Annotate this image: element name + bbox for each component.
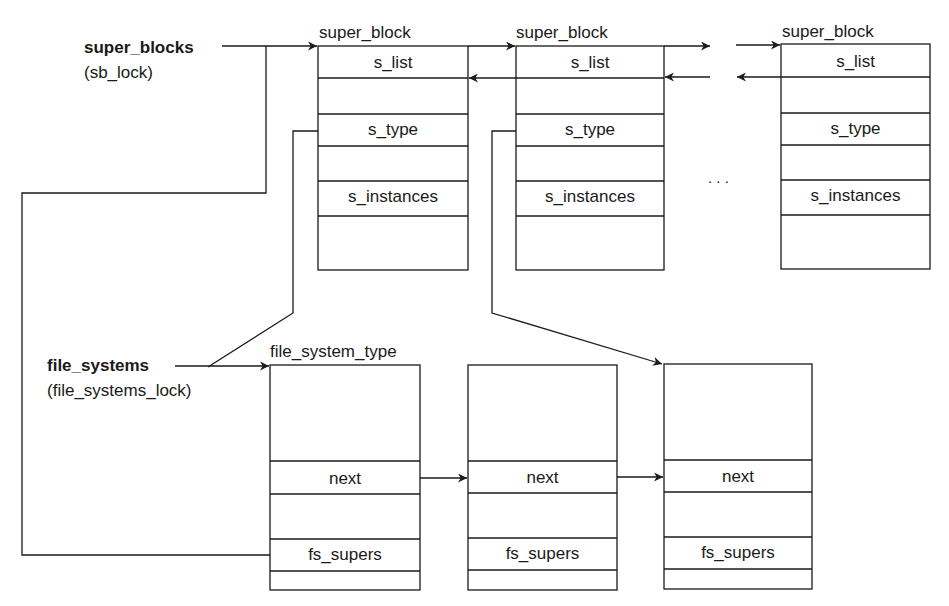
- fst1-field-fs-supers: fs_supers: [270, 546, 420, 563]
- super-blocks-to-fs-supers-line: [22, 46, 270, 555]
- super-block-1: [318, 46, 468, 270]
- file-systems-lock-label: (file_systems_lock): [47, 382, 192, 399]
- sb2-field-s-list: s_list: [516, 54, 664, 71]
- fst3-field-fs-supers: fs_supers: [664, 544, 812, 561]
- sb1-field-s-instances: s_instances: [318, 188, 468, 205]
- super-block-3-title: super_block: [782, 23, 874, 40]
- fst2-field-next: next: [468, 469, 617, 486]
- super-block-2-title: super_block: [516, 24, 608, 41]
- sb2-field-s-type: s_type: [516, 121, 664, 138]
- sb1-field-s-list: s_list: [318, 54, 468, 71]
- super-block-ellipsis: . . .: [708, 170, 729, 185]
- sb3-field-s-type: s_type: [781, 120, 930, 137]
- sb-lock-label: (sb_lock): [84, 64, 153, 81]
- super-block-3: [781, 44, 930, 269]
- super-block-1-title: super_block: [319, 24, 411, 41]
- super-block-2: [516, 46, 664, 270]
- sb1-field-s-type: s_type: [318, 121, 468, 138]
- diagram-canvas: [0, 0, 949, 606]
- sb2-field-s-instances: s_instances: [516, 188, 664, 205]
- fst3-field-next: next: [664, 468, 812, 485]
- super-blocks-label: super_blocks: [84, 39, 194, 56]
- fst2-field-fs-supers: fs_supers: [468, 545, 617, 562]
- sb3-field-s-list: s_list: [781, 53, 930, 70]
- file-systems-label: file_systems: [47, 357, 149, 374]
- file-system-type-1-title: file_system_type: [270, 343, 397, 360]
- sb3-field-s-instances: s_instances: [781, 187, 930, 204]
- fst1-field-next: next: [270, 470, 420, 487]
- s-type-1-link: [208, 131, 318, 367]
